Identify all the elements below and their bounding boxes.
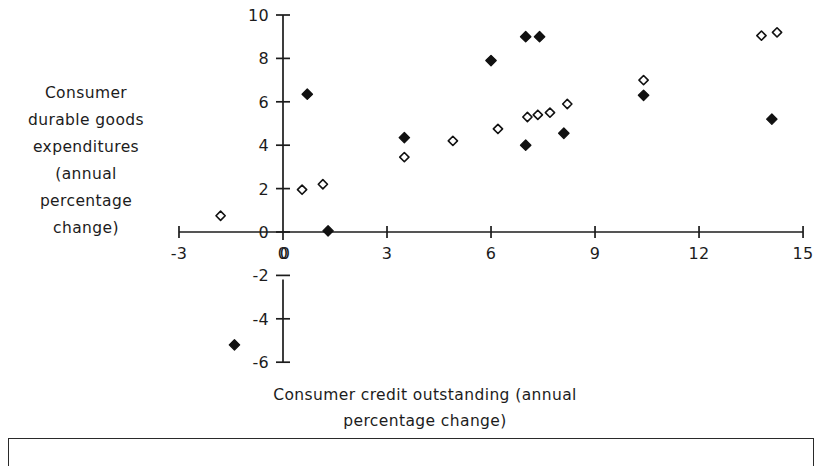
x-axis-caption: Consumer credit outstanding (annual perc…: [180, 382, 670, 434]
data-point-filled: [323, 226, 333, 236]
data-point-filled: [302, 89, 312, 99]
series-filled-diamond: [229, 32, 777, 351]
data-point-open: [318, 180, 327, 189]
data-point-filled: [559, 128, 569, 138]
series-open-diamond: [216, 28, 782, 221]
data-point-open: [448, 136, 457, 145]
y-tick-label: 2: [259, 180, 269, 199]
data-point-filled: [520, 140, 530, 150]
scatter-plot-figure: Consumer durable goods expenditures (ann…: [0, 0, 822, 466]
data-point-filled: [229, 340, 239, 350]
y-tick-label: -6: [252, 353, 269, 372]
figure-bottom-frame: [8, 438, 814, 466]
data-point-open: [400, 153, 409, 162]
y-tick-label: 6: [259, 93, 269, 112]
y-tick-label: 4: [259, 136, 269, 155]
data-point-open: [563, 99, 572, 108]
x-tick-label: 15: [793, 244, 814, 263]
x-tick-label: 3: [382, 244, 392, 263]
data-point-filled: [534, 32, 544, 42]
data-point-open: [493, 124, 502, 133]
x-tick-label: 6: [486, 244, 496, 263]
y-tick-label: 0: [259, 223, 269, 242]
data-point-open: [216, 211, 225, 220]
x-tick-label: 9: [590, 244, 600, 263]
data-point-filled: [520, 32, 530, 42]
y-tick-label: -2: [252, 266, 269, 285]
data-point-filled: [638, 90, 648, 100]
data-point-filled: [486, 55, 496, 65]
x-tick-label: -3: [171, 244, 188, 263]
data-point-open: [523, 112, 532, 121]
data-point-open: [757, 31, 766, 40]
y-tick-label: -4: [252, 310, 269, 329]
data-point-filled: [399, 132, 409, 142]
data-point-filled: [767, 114, 777, 124]
data-point-open: [533, 110, 542, 119]
y-tick-label: 10: [248, 6, 269, 25]
data-point-open: [639, 76, 648, 85]
x-tick-label: 12: [689, 244, 710, 263]
data-point-open: [545, 108, 554, 117]
y-tick-label: 8: [259, 49, 269, 68]
data-point-open: [297, 185, 306, 194]
data-point-open: [772, 28, 781, 37]
x-origin-label: 0: [280, 244, 290, 263]
